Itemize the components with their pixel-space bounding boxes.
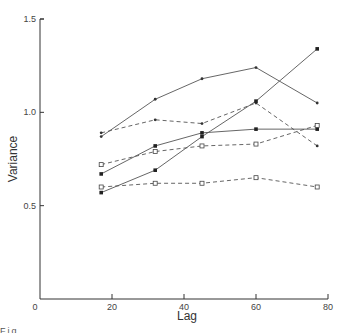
series-group	[99, 47, 319, 194]
data-point-marker	[99, 185, 103, 189]
data-point-marker	[254, 176, 258, 180]
series-dashed-open-square-lower	[99, 176, 319, 189]
data-point-marker	[255, 66, 258, 69]
x-tick-label: 60	[251, 302, 261, 312]
data-point-marker	[200, 181, 204, 185]
series-line	[101, 68, 317, 137]
data-point-marker	[315, 185, 319, 189]
y-axis-title: Variance	[6, 135, 20, 182]
series-line	[101, 49, 317, 193]
data-point-marker	[100, 131, 103, 134]
x-tick-label: 0	[32, 302, 37, 312]
data-point-marker	[201, 77, 204, 80]
y-tick-label: 1.0	[23, 107, 36, 117]
data-point-marker	[200, 131, 204, 135]
series-line	[101, 103, 317, 146]
data-point-marker	[201, 122, 204, 125]
series-solid-filled-square-steep	[99, 47, 319, 194]
data-point-marker	[154, 98, 157, 101]
data-point-marker	[315, 47, 319, 51]
data-point-marker	[254, 127, 258, 131]
line-chart: 0.51.01.5020406080 Lag Variance	[0, 0, 345, 333]
data-point-marker	[153, 181, 157, 185]
y-tick-label: 0.5	[23, 201, 36, 211]
data-point-marker	[316, 145, 319, 148]
data-point-marker	[153, 144, 157, 148]
series-dashed-dot	[100, 102, 319, 148]
x-axis-title: Lag	[177, 309, 197, 323]
series-solid-dot-upper	[100, 66, 319, 138]
y-tick-label: 1.5	[23, 14, 36, 24]
data-point-marker	[154, 118, 157, 121]
data-point-marker	[99, 191, 103, 195]
data-point-marker	[153, 150, 157, 154]
data-point-marker	[316, 102, 319, 105]
axis-lines	[40, 19, 328, 299]
data-point-marker	[315, 123, 319, 127]
axes: 0.51.01.5020406080	[23, 14, 333, 312]
data-point-marker	[99, 172, 103, 176]
series-line	[101, 125, 317, 164]
x-tick-label: 80	[323, 302, 333, 312]
series-dashed-open-square-upper	[99, 123, 319, 166]
data-point-marker	[99, 163, 103, 167]
data-point-marker	[200, 135, 204, 139]
data-point-marker	[200, 144, 204, 148]
data-point-marker	[100, 135, 103, 138]
data-point-marker	[153, 168, 157, 172]
data-point-marker	[315, 127, 319, 131]
x-tick-label: 20	[107, 302, 117, 312]
series-solid-filled-square	[99, 127, 319, 175]
data-point-marker	[254, 142, 258, 146]
series-line	[101, 129, 317, 174]
figure-caption: Fig. . . . . . . . . . . . . . . . . . .…	[0, 326, 345, 333]
data-point-marker	[254, 99, 258, 103]
